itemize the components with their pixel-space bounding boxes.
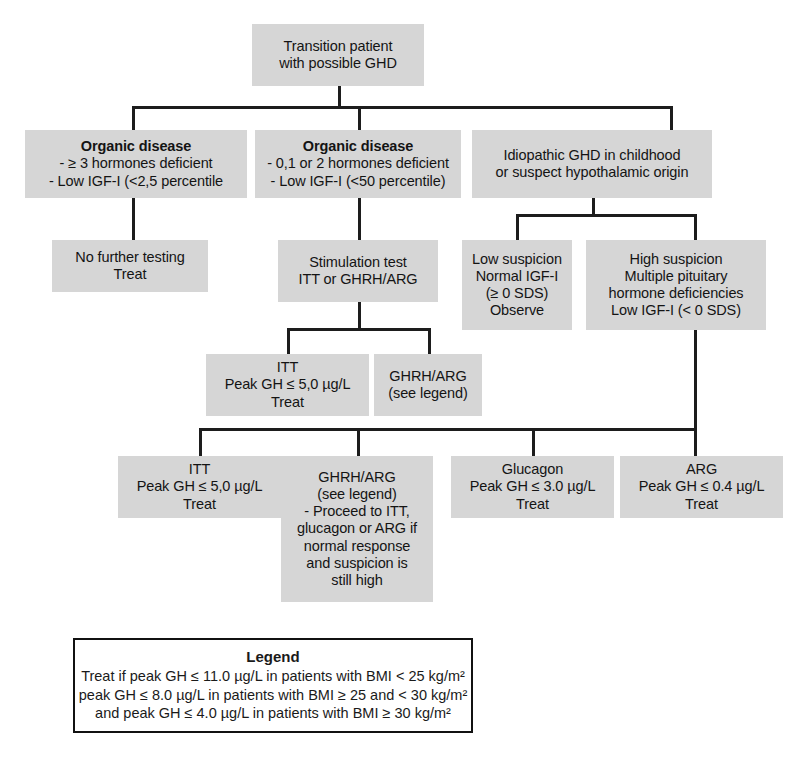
node-glucagon-line-1: Glucagon: [502, 461, 563, 478]
node-arg-line-2: Peak GH ≤ 0.4 µg/L: [639, 478, 765, 495]
node-high-suspicion-line-1: High suspicion: [630, 251, 723, 268]
legend-line-3: and peak GH ≤ 4.0 µg/L in patients with …: [95, 704, 451, 723]
node-itt-bottom-line-3: Treat: [183, 496, 216, 513]
node-organic-severe-line-1: - ≥ 3 hormones deficient: [59, 155, 212, 172]
node-root-line-2: with possible GHD: [279, 55, 397, 72]
legend-line-2: peak GH ≤ 8.0 µg/L in patients with BMI …: [79, 686, 467, 705]
node-ghrh-arg-bottom-line-4: glucagon or ARG if: [297, 520, 417, 537]
node-ghrh-arg-bottom-line-3: - Proceed to ITT,: [304, 503, 409, 520]
connector-mid-tests-bus: [287, 328, 430, 331]
node-ghrh-arg-bottom-line-6: and suspicion is: [306, 555, 408, 572]
node-ghrh-arg-mid-line-1: GHRH/ARG: [389, 368, 466, 385]
node-high-suspicion-line-3: hormone deficiencies: [608, 285, 743, 302]
node-ghrh-arg-bottom-line-7: still high: [331, 572, 382, 589]
node-organic-disease-mild: Organic disease - 0,1 or 2 hormones defi…: [255, 130, 461, 198]
node-glucagon-line-3: Treat: [516, 496, 549, 513]
connector-low-suspicion-down: [516, 214, 519, 240]
node-low-suspicion-line-2: Normal IGF-I: [476, 268, 559, 285]
node-ghrh-arg-bottom: GHRH/ARG (see legend) - Proceed to ITT, …: [281, 456, 433, 602]
legend-title: Legend: [246, 648, 299, 665]
connector-row2-bus: [132, 106, 672, 109]
node-organic-disease-severe: Organic disease - ≥ 3 hormones deficient…: [25, 130, 247, 198]
connector-bottom-bus: [199, 428, 697, 431]
node-arg: ARG Peak GH ≤ 0.4 µg/L Treat: [620, 456, 783, 518]
node-high-suspicion-line-4: Low IGF-I (< 0 SDS): [611, 302, 741, 319]
connector-row2-mid: [358, 106, 361, 130]
connector-row2-right: [670, 106, 673, 130]
node-idiopathic-ghd: Idiopathic GHD in childhood or suspect h…: [472, 130, 712, 198]
connector-high-suspicion-bottom: [694, 330, 697, 430]
node-low-suspicion: Low suspicion Normal IGF-I (≥ 0 SDS) Obs…: [462, 240, 572, 330]
node-no-further-testing-line-2: Treat: [114, 266, 147, 283]
node-glucagon-line-2: Peak GH ≤ 3.0 µg/L: [470, 478, 596, 495]
node-no-further-testing: No further testing Treat: [52, 240, 208, 292]
node-itt-mid-line-1: ITT: [277, 359, 298, 376]
connector-ghrh-bottom-down: [357, 428, 360, 456]
node-itt-mid-line-3: Treat: [271, 394, 304, 411]
node-high-suspicion: High suspicion Multiple pituitary hormon…: [586, 240, 766, 330]
node-root: Transition patient with possible GHD: [252, 24, 424, 86]
node-ghrh-arg-bottom-line-5: normal response: [304, 538, 411, 555]
node-low-suspicion-line-1: Low suspicion: [472, 251, 562, 268]
connector-organic-mild-down: [358, 198, 361, 240]
connector-glucagon-down: [532, 428, 535, 456]
node-ghrh-arg-mid-line-2: (see legend): [388, 385, 467, 402]
node-organic-mild-line-1: - 0,1 or 2 hormones deficient: [267, 155, 449, 172]
connector-row2-left: [132, 106, 135, 130]
ghd-diagnostic-flowchart: Transition patient with possible GHD Org…: [0, 0, 811, 783]
connector-ghrh-mid-down: [428, 328, 431, 354]
node-organic-mild-title: Organic disease: [303, 138, 414, 155]
connector-suspicion-bus: [516, 214, 696, 217]
node-stimulation-line-1: Stimulation test: [309, 254, 407, 271]
node-low-suspicion-line-3: (≥ 0 SDS): [486, 285, 549, 302]
node-itt-bottom: ITT Peak GH ≤ 5,0 µg/L Treat: [118, 456, 281, 518]
node-ghrh-arg-mid: GHRH/ARG (see legend): [374, 354, 482, 416]
node-ghrh-arg-bottom-line-2: (see legend): [317, 486, 396, 503]
node-idiopathic-line-1: Idiopathic GHD in childhood: [503, 147, 680, 164]
legend-line-1: Treat if peak GH ≤ 11.0 µg/L in patients…: [81, 667, 465, 686]
legend-box: Legend Treat if peak GH ≤ 11.0 µg/L in p…: [73, 638, 473, 733]
node-ghrh-arg-bottom-line-1: GHRH/ARG: [318, 469, 395, 486]
node-itt-bottom-line-2: Peak GH ≤ 5,0 µg/L: [137, 478, 263, 495]
node-stimulation-test: Stimulation test ITT or GHRH/ARG: [278, 240, 438, 302]
node-root-line-1: Transition patient: [284, 38, 393, 55]
connector-high-suspicion-down: [694, 214, 697, 240]
node-itt-bottom-line-1: ITT: [189, 461, 210, 478]
node-low-suspicion-line-4: Observe: [490, 302, 544, 319]
node-organic-severe-title: Organic disease: [81, 138, 192, 155]
node-organic-mild-line-2: - Low IGF-I (<50 percentile): [271, 173, 446, 190]
node-stimulation-line-2: ITT or GHRH/ARG: [298, 271, 417, 288]
node-arg-line-1: ARG: [686, 461, 717, 478]
connector-root-down: [338, 86, 341, 108]
node-glucagon: Glucagon Peak GH ≤ 3.0 µg/L Treat: [451, 456, 614, 518]
node-organic-severe-line-2: - Low IGF-I (<2,5 percentile: [49, 173, 223, 190]
node-high-suspicion-line-2: Multiple pituitary: [625, 268, 728, 285]
node-arg-line-3: Treat: [685, 496, 718, 513]
connector-itt-mid-down: [287, 328, 290, 354]
connector-itt-bottom-down: [199, 428, 202, 456]
connector-stimulation-down: [358, 302, 361, 330]
connector-organic-severe-down: [132, 198, 135, 240]
node-no-further-testing-line-1: No further testing: [75, 249, 184, 266]
node-itt-mid-line-2: Peak GH ≤ 5,0 µg/L: [225, 376, 351, 393]
node-idiopathic-line-2: or suspect hypothalamic origin: [496, 164, 689, 181]
node-itt-mid: ITT Peak GH ≤ 5,0 µg/L Treat: [206, 354, 369, 416]
connector-arg-down: [694, 428, 697, 456]
